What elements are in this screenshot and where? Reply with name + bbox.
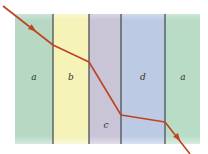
layer-label-4: d <box>140 72 146 82</box>
layer-label-1: a <box>31 72 36 82</box>
layer-label-5: a <box>180 72 185 82</box>
layer-label-3: c <box>103 120 108 130</box>
layer-label-2: b <box>68 72 74 82</box>
refraction-diagram: abcda <box>0 0 208 154</box>
